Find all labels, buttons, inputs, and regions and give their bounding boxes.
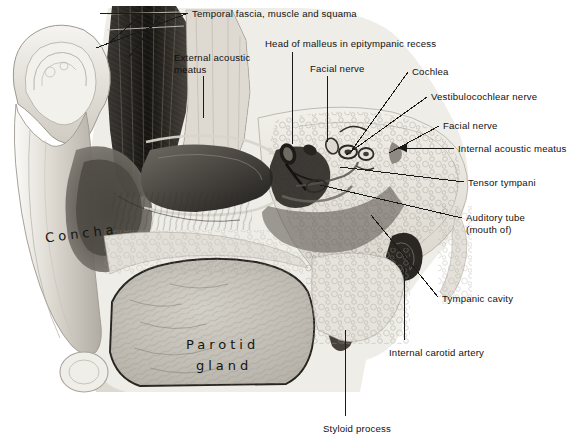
label-styloid-process: Styloid process <box>323 423 391 435</box>
label-facial-nerve-right: Facial nerve <box>443 120 498 132</box>
label-facial-nerve-top: Facial nerve <box>310 63 365 75</box>
lead-facial-nerve-right <box>389 126 439 153</box>
label-head-of-malleus: Head of malleus in epitympanic recess <box>265 38 436 50</box>
label-auditory-tube: Auditory tube (mouth of) <box>466 212 525 235</box>
label-tympanic-cavity: Tympanic cavity <box>442 293 513 305</box>
label-tensor-tympani: Tensor tympani <box>468 177 536 189</box>
anatomical-figure: Temporal fascia, muscle and squamaExtern… <box>0 0 578 445</box>
lead-temporal-fascia-c <box>129 16 160 57</box>
handwritten-parotid-gland-line1: Parotid <box>186 337 259 352</box>
lead-temporal-fascia-d <box>108 14 142 44</box>
lead-auditory-tube <box>320 185 462 218</box>
lead-tensor-tympani <box>340 167 464 182</box>
lead-internal-acoustic-meatus-arrowhead <box>398 144 407 152</box>
label-internal-acoustic-meatus: Internal acoustic meatus <box>458 143 567 155</box>
label-vestibulocochlear-nerve: Vestibulocochlear nerve <box>431 91 537 103</box>
label-internal-carotid-artery: Internal carotid artery <box>389 347 484 359</box>
lead-cochlea <box>352 72 408 150</box>
label-cochlea: Cochlea <box>412 66 449 78</box>
label-external-acoustic-meatus: External acoustic meatus <box>174 52 250 75</box>
lead-vestibulocochlear <box>346 97 427 155</box>
handwritten-parotid-gland-line2: gland <box>196 358 252 373</box>
label-temporal-fascia: Temporal fascia, muscle and squama <box>192 8 357 20</box>
